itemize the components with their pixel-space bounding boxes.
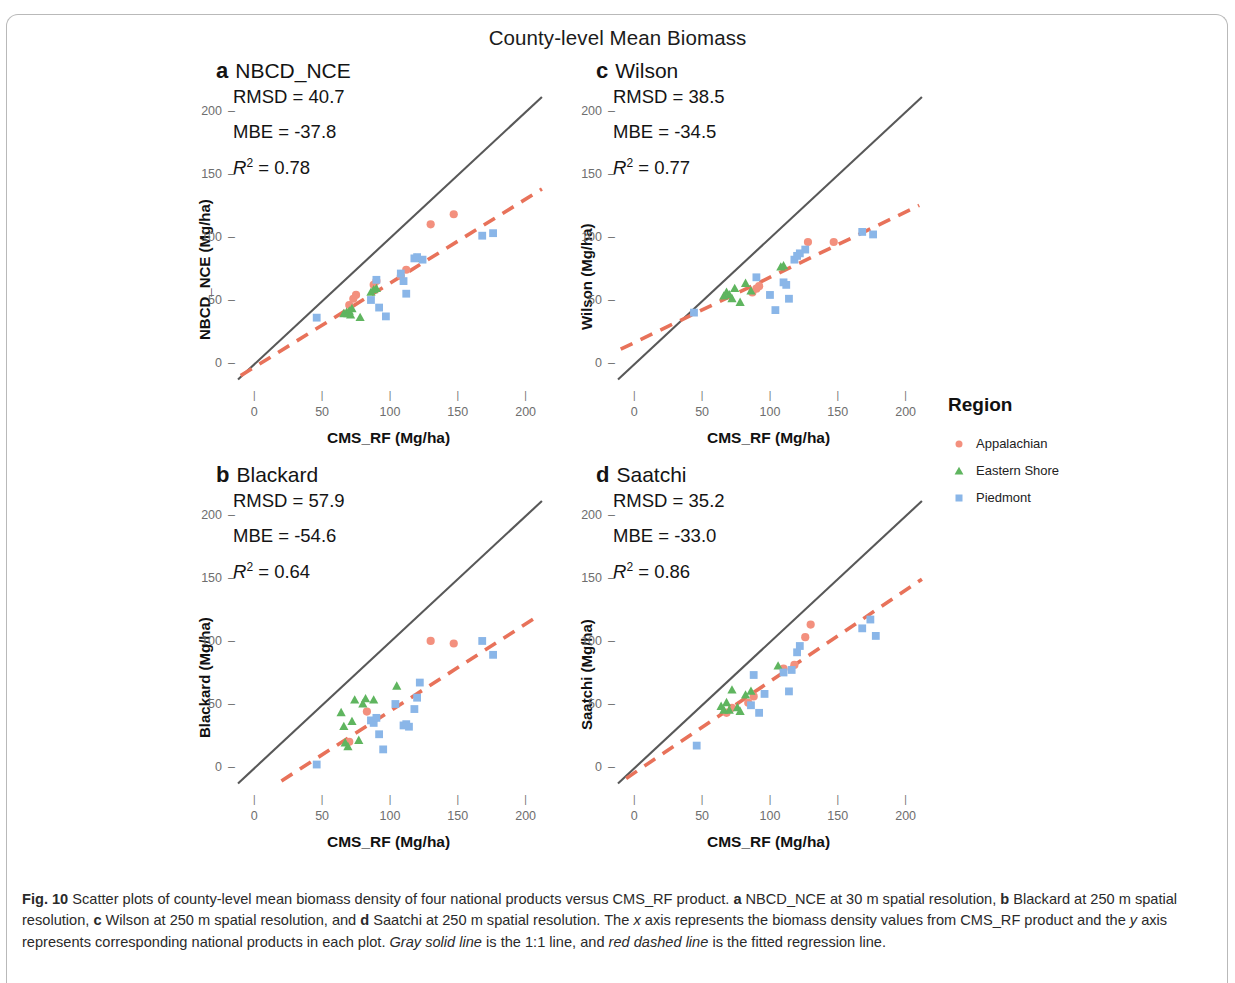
legend-item-piedmont[interactable]: Piedmont (948, 484, 1059, 511)
y-tick-mark-b-2: – (225, 634, 235, 648)
r2-number-c: 0.77 (654, 157, 690, 178)
x-tick-label-d-1: 50 (682, 809, 722, 823)
panel-stats-d: RMSD = 35.2MBE = -33.0R2 = 0.86 (613, 492, 725, 598)
y-tick-mark-b-4: – (225, 508, 235, 522)
y-tick-mark-a-4: – (225, 104, 235, 118)
triangle-marker-icon (948, 464, 970, 478)
panel-letter-b: b (216, 462, 229, 487)
y-tick-label-b-0: 0 (186, 760, 222, 774)
x-axis-label-b: CMS_RF (Mg/ha) (327, 833, 450, 851)
y-tick-label-d-4: 200 (566, 508, 602, 522)
y-tick-mark-d-4: – (605, 508, 615, 522)
panel-product-name-c: Wilson (615, 59, 678, 82)
y-tick-mark-c-3: – (605, 167, 615, 181)
caption-text-h: is the fitted regression line. (708, 934, 886, 950)
legend-item-appalachian[interactable]: Appalachian (948, 430, 1059, 457)
x-tick-mark-b-1: | (302, 794, 342, 805)
y-tick-mark-c-1: – (605, 293, 615, 307)
y-tick-mark-a-3: – (225, 167, 235, 181)
x-tick-label-a-1: 50 (302, 405, 342, 419)
y-tick-label-b-1: 50 (186, 697, 222, 711)
x-tick-label-c-2: 100 (750, 405, 790, 419)
x-tick-mark-b-2: | (370, 794, 410, 805)
y-tick-mark-c-4: – (605, 104, 615, 118)
caption-letter-b: b (1000, 891, 1009, 907)
caption-gray-line-italic: Gray solid line (390, 934, 482, 950)
rmsd-value-c: RMSD = 38.5 (613, 88, 725, 107)
legend-title: Region (948, 394, 1059, 416)
x-tick-label-b-4: 200 (506, 809, 546, 823)
x-tick-mark-b-0: | (234, 794, 274, 805)
y-tick-label-a-4: 200 (186, 104, 222, 118)
legend-item-eastern-shore[interactable]: Eastern Shore (948, 457, 1059, 484)
x-tick-label-d-4: 200 (886, 809, 926, 823)
y-tick-mark-a-0: – (225, 356, 235, 370)
y-tick-mark-a-1: – (225, 293, 235, 307)
panel-title-c: cWilson (596, 58, 678, 84)
rmsd-value-d: RMSD = 35.2 (613, 492, 725, 511)
mbe-value-d: MBE = -33.0 (613, 527, 725, 546)
x-tick-mark-c-1: | (682, 390, 722, 401)
y-tick-label-b-4: 200 (186, 508, 222, 522)
r2-value-c: R2 = 0.77 (613, 157, 725, 178)
x-tick-label-b-0: 0 (234, 809, 274, 823)
x-tick-mark-a-2: | (370, 390, 410, 401)
circle-marker-icon (948, 437, 970, 451)
r2-number-a: 0.78 (274, 157, 310, 178)
y-tick-label-a-1: 50 (186, 293, 222, 307)
x-tick-mark-c-0: | (614, 390, 654, 401)
figure-caption: Fig. 10 Scatter plots of county-level me… (22, 889, 1214, 953)
panel-letter-a: a (216, 58, 228, 83)
mbe-value-b: MBE = -54.6 (233, 527, 345, 546)
y-tick-mark-d-3: – (605, 571, 615, 585)
x-tick-label-b-2: 100 (370, 809, 410, 823)
x-tick-mark-c-3: | (818, 390, 858, 401)
panel-stats-c: RMSD = 38.5MBE = -34.5R2 = 0.77 (613, 88, 725, 194)
x-tick-mark-c-4: | (886, 390, 926, 401)
caption-text-d: Saatchi at 250 m spatial resolution. The (369, 912, 633, 928)
r2-number-b: 0.64 (274, 561, 310, 582)
panel-product-name-a: NBCD_NCE (235, 59, 351, 82)
panel-stats-a: RMSD = 40.7MBE = -37.8R2 = 0.78 (233, 88, 345, 194)
mbe-value-a: MBE = -37.8 (233, 123, 345, 142)
x-tick-mark-a-3: | (438, 390, 478, 401)
legend-label-0: Appalachian (976, 436, 1048, 451)
caption-letter-a: a (733, 891, 741, 907)
panel-product-name-d: Saatchi (616, 463, 686, 486)
x-tick-mark-b-4: | (506, 794, 546, 805)
x-tick-mark-a-1: | (302, 390, 342, 401)
legend-label-1: Eastern Shore (976, 463, 1059, 478)
y-tick-label-a-0: 0 (186, 356, 222, 370)
x-tick-mark-a-0: | (234, 390, 274, 401)
y-tick-label-c-0: 0 (566, 356, 602, 370)
y-tick-mark-b-3: – (225, 571, 235, 585)
x-tick-label-a-4: 200 (506, 405, 546, 419)
y-tick-label-a-2: 100 (186, 230, 222, 244)
y-tick-label-b-2: 100 (186, 634, 222, 648)
caption-text-a: NBCD_NCE at 30 m spatial resolution, (742, 891, 1001, 907)
panel-letter-c: c (596, 58, 608, 83)
y-tick-label-c-1: 50 (566, 293, 602, 307)
y-tick-label-d-2: 100 (566, 634, 602, 648)
y-tick-mark-b-0: – (225, 760, 235, 774)
y-tick-label-b-3: 150 (186, 571, 222, 585)
y-tick-label-c-3: 150 (566, 167, 602, 181)
mbe-value-c: MBE = -34.5 (613, 123, 725, 142)
legend-label-2: Piedmont (976, 490, 1031, 505)
y-tick-label-c-2: 100 (566, 230, 602, 244)
x-axis-label-c: CMS_RF (Mg/ha) (707, 429, 830, 447)
y-tick-label-d-0: 0 (566, 760, 602, 774)
panel-letter-d: d (596, 462, 609, 487)
rmsd-value-b: RMSD = 57.9 (233, 492, 345, 511)
x-tick-mark-d-4: | (886, 794, 926, 805)
x-tick-mark-d-2: | (750, 794, 790, 805)
x-tick-label-d-2: 100 (750, 809, 790, 823)
x-tick-mark-a-4: | (506, 390, 546, 401)
r2-value-b: R2 = 0.64 (233, 561, 345, 582)
caption-text-e: axis represents the biomass density valu… (641, 912, 1130, 928)
y-tick-label-d-3: 150 (566, 571, 602, 585)
x-axis-label-a: CMS_RF (Mg/ha) (327, 429, 450, 447)
x-tick-label-b-1: 50 (302, 809, 342, 823)
panel-title-d: dSaatchi (596, 462, 687, 488)
x-tick-label-c-4: 200 (886, 405, 926, 419)
